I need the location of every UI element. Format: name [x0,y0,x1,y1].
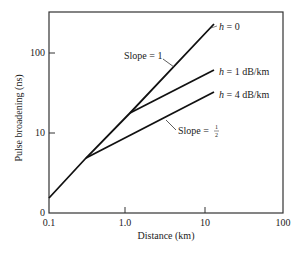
plot-frame [49,12,283,213]
series-label-h4: h = 4 dB/km [219,89,270,100]
x-tick-label-10: 10 [200,217,210,228]
y-tick-label-10: 10 [35,127,45,138]
y-axis-title: Pulse broadening (ns) [13,74,25,161]
annotation-slope-half-num: 1 [215,124,218,130]
x-tick-label-1.0: 1.0 [119,217,132,228]
chart: 100 10 0 0.1 1.0 10 100 Distance (km) Pu… [0,0,302,253]
annotation-slope-half: Slope = [178,125,209,136]
series-label-h0: h = 0 [219,21,240,32]
series-line-h1 [130,70,214,113]
x-tick-label-100: 100 [276,217,291,228]
annotation-slope-1: Slope = 1 [124,50,162,61]
series-label-h1: h = 1 dB/km [219,66,270,77]
x-axis-title: Distance (km) [138,230,195,242]
annotation-leader-slope-half [166,120,176,130]
annotation-leader-slope-1 [163,59,174,67]
x-tick-label-0.1: 0.1 [43,217,56,228]
annotation-slope-half-den: 2 [215,132,218,138]
y-tick-label-100: 100 [30,47,45,58]
